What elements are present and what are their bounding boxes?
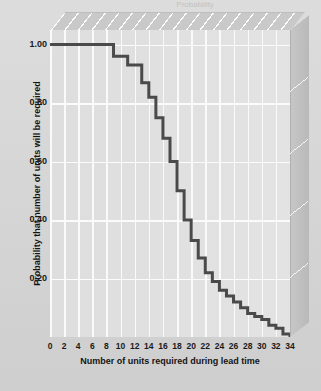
y-axis-tick-label: 1.00 — [1, 40, 47, 49]
x-axis-tick-label: 34 — [282, 341, 298, 351]
truncated-caption: Probability — [120, 0, 270, 9]
chart-3d-top-face — [50, 12, 305, 31]
chart-3d-right-face-gridlines — [290, 16, 308, 337]
y-axis-label-holder: Probability that number of units will be… — [10, 0, 24, 391]
step-curve — [50, 30, 290, 337]
chart-figure: Probability 1.000.800.600.400.20 0246810… — [0, 0, 321, 391]
plot-area — [50, 30, 290, 337]
x-axis-label: Number of units required during lead tim… — [50, 356, 290, 367]
y-axis-label: Probability that number of units will be… — [32, 69, 43, 299]
x-axis-ticks: 0246810121416182022242628303234 — [50, 341, 290, 352]
